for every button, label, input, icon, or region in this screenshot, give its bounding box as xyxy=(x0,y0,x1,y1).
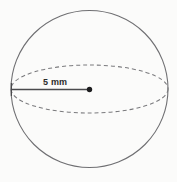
radius-measurement-label: 5 mm xyxy=(43,77,67,88)
sphere-center-point xyxy=(87,87,92,92)
sphere-diagram: 5 mm xyxy=(0,0,177,182)
sphere-figure-svg xyxy=(0,0,177,182)
